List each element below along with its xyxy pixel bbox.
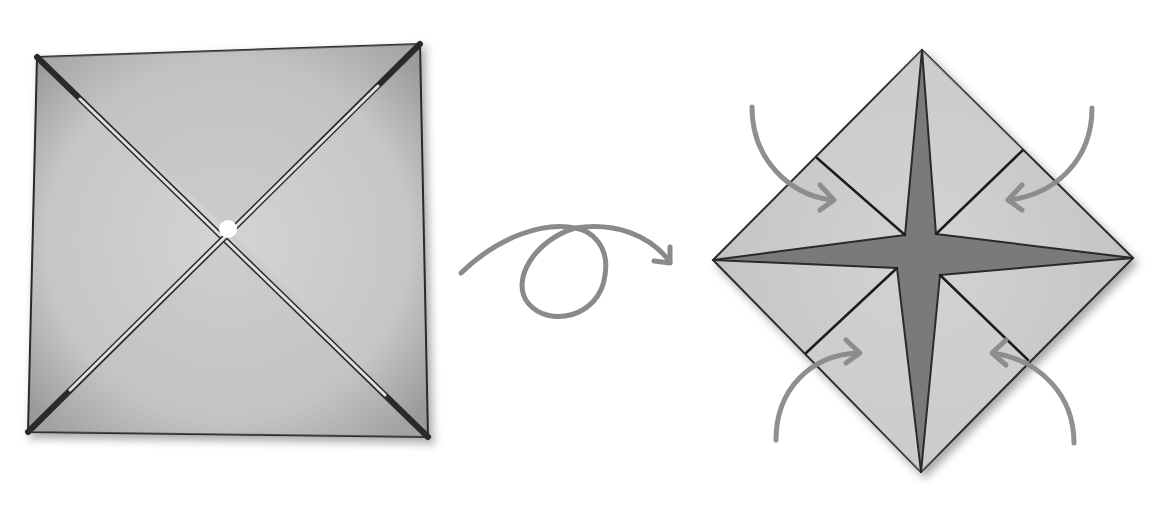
origami-diagram <box>0 0 1170 510</box>
turn-over-arrow-icon <box>461 227 670 317</box>
creased-square <box>28 44 428 437</box>
crease-center-highlight <box>219 220 237 238</box>
